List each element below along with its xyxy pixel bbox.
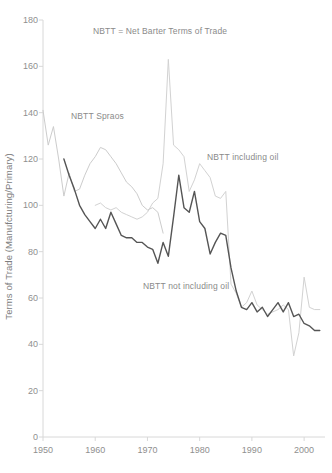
series-line-nbtt-including-oil (95, 59, 320, 356)
series-label-nbtt-spraos: NBTT Spraos (71, 111, 124, 121)
series-label-nbtt-not-including-oil: NBTT not including oil (143, 281, 229, 291)
series-label-nbtt-including-oil: NBTT including oil (207, 152, 279, 162)
x-axis-tick-marks (43, 437, 304, 441)
chart-note-nbtt-definition: NBTT = Net Barter Terms of Trade (93, 26, 227, 36)
data-series-group (43, 59, 320, 356)
plot-area (0, 0, 332, 473)
y-axis-tick-marks (39, 20, 43, 437)
axis-lines (43, 20, 325, 437)
terms-of-trade-chart: Terms of Trade (Manufcturing/Primary) 02… (0, 0, 332, 473)
